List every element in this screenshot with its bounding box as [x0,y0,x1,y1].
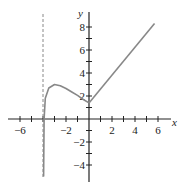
x-tick-label: −6 [14,124,26,136]
y-tick-label: −2 [73,136,85,148]
y-tick-label: 8 [80,21,86,33]
x-tick-label: −2 [60,124,72,136]
x-tick-label: 4 [132,124,138,136]
x-tick-label: 2 [109,124,115,136]
y-tick-label: −4 [73,159,85,171]
x-axis-label: x [171,116,177,128]
right-branch-line [89,24,155,103]
function-graph: −6−22468642−2−4xy [0,0,179,189]
y-axis-label: y [77,7,83,19]
x-tick-label: 6 [155,124,161,136]
y-tick-label: 6 [80,44,86,56]
y-tick-label: 4 [80,67,86,79]
